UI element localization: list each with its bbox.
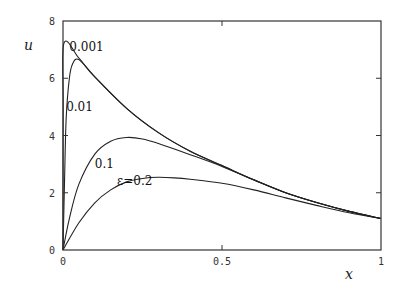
y-axis-label: u <box>24 37 33 53</box>
curve-0_001 <box>63 41 381 250</box>
y-tick-label: 6 <box>49 73 55 84</box>
curve-labels: 0.0010.010.1ε=0.2 <box>66 40 152 189</box>
curve-0_2 <box>63 177 381 250</box>
x-tick-label: 0.5 <box>213 256 231 267</box>
curve-label: 0.1 <box>95 157 114 171</box>
line-chart: 0246800.51 0.0010.010.1ε=0.2 u x <box>0 0 402 293</box>
axis-ticks <box>63 21 381 250</box>
y-tick-label: 2 <box>49 188 55 199</box>
curve-0_1 <box>63 137 381 250</box>
curve-label: 0.001 <box>69 40 103 54</box>
y-tick-label: 8 <box>49 16 55 27</box>
plot-frame <box>63 21 381 250</box>
x-tick-label: 0 <box>60 256 66 267</box>
curve-label: 0.01 <box>66 100 93 114</box>
y-tick-label: 0 <box>49 245 55 256</box>
curve-0_01 <box>63 59 381 250</box>
plot-area <box>63 41 381 250</box>
y-tick-label: 4 <box>49 131 55 142</box>
x-axis-label: x <box>345 266 353 282</box>
curve-label: ε=0.2 <box>117 174 152 188</box>
x-tick-label: 1 <box>378 256 384 267</box>
